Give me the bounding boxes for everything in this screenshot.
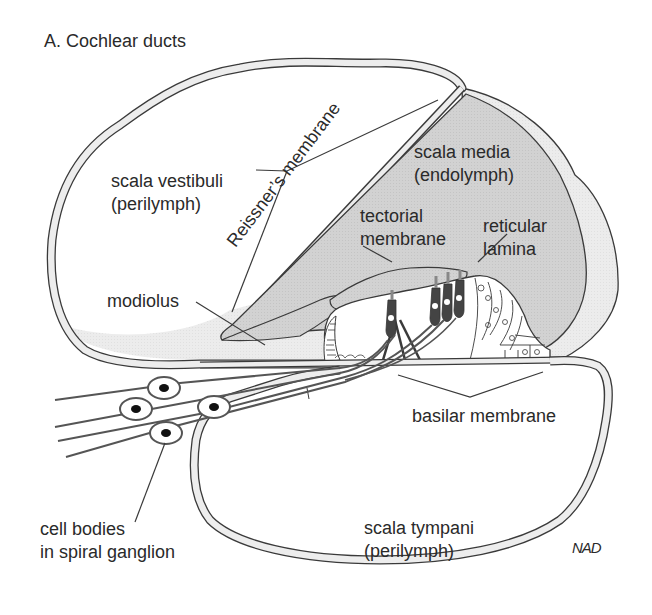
label-scala-tympani-2: (perilymph) bbox=[364, 540, 454, 562]
ganglion-cell bbox=[150, 422, 182, 444]
label-basilar-membrane: basilar membrane bbox=[412, 405, 556, 427]
ganglion-cell bbox=[148, 377, 180, 399]
label-scala-media-2: (endolymph) bbox=[414, 164, 514, 186]
label-scala-vestibuli-2: (perilymph) bbox=[111, 193, 201, 215]
ganglion-cell bbox=[198, 396, 230, 418]
label-reticular-lamina-1: reticular bbox=[483, 215, 547, 237]
cochlear-duct-diagram: A. Cochlear ducts scala vestibuli (peril… bbox=[0, 0, 652, 615]
basilar-leader bbox=[398, 372, 543, 397]
label-scala-tympani-1: scala tympani bbox=[364, 517, 474, 539]
label-modiolus: modiolus bbox=[107, 290, 179, 312]
label-tectorial-membrane-2: membrane bbox=[360, 228, 446, 250]
label-cell-bodies-1: cell bodies bbox=[40, 518, 125, 540]
label-cell-bodies-2: in spiral ganglion bbox=[40, 541, 175, 563]
ganglion-cell bbox=[120, 398, 152, 420]
ganglion-leader bbox=[135, 443, 165, 522]
label-scala-media-1: scala media bbox=[414, 141, 510, 163]
label-reticular-lamina-2: lamina bbox=[483, 238, 536, 260]
label-scala-vestibuli-1: scala vestibuli bbox=[111, 170, 223, 192]
figure-title: A. Cochlear ducts bbox=[44, 30, 186, 52]
artist-signature: NAD bbox=[572, 537, 601, 559]
label-tectorial-membrane-1: tectorial bbox=[360, 205, 423, 227]
spiral-ganglion-cells bbox=[120, 377, 230, 444]
